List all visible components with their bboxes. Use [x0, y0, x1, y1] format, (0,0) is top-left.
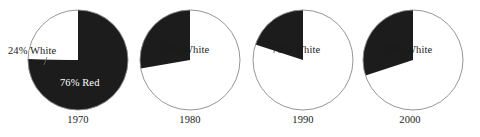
pie-2000-white-label: 55% White	[384, 44, 432, 55]
pie-1980-slice-red	[140, 10, 190, 69]
pie-1970-year-label: 1970	[48, 114, 108, 125]
pie-2000	[363, 10, 463, 110]
pie-1990-red-label-line2: Red	[272, 127, 304, 137]
pie-1970	[28, 10, 128, 110]
pie-2000-red-label: 45% Red	[388, 76, 428, 87]
pie-1990-year-label: 1990	[273, 114, 333, 125]
pie-1980-red-label: 47% Red	[166, 76, 206, 87]
pie-1980-white-label: 53% White	[161, 44, 209, 55]
pie-1990-white-label: 70% White	[272, 44, 320, 55]
pie-1970-red-label: 76% Red	[60, 77, 100, 88]
pie-1990-red-label-line1: 30%	[272, 94, 304, 105]
pie-1970-white-label: 24% White	[8, 45, 56, 56]
pie-1990-red-label: 30% Red	[272, 72, 304, 137]
pie-1980	[140, 10, 240, 110]
pie-chart-figure: 24% White 76% Red 1970 53% White 47% Red…	[0, 0, 480, 137]
pie-1980-year-label: 1980	[160, 114, 220, 125]
pie-2000-year-label: 2000	[380, 114, 440, 125]
